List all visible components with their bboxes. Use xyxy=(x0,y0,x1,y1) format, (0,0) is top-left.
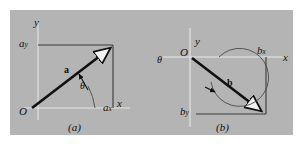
panel-b-component-y-label: by xyxy=(180,106,189,117)
panel-b-component-x-subscript: x xyxy=(263,48,266,56)
panel-a-graphics xyxy=(24,22,130,120)
panel-b-origin-label: O xyxy=(180,47,188,58)
panel-a-component-y-subscript: y xyxy=(25,41,28,49)
panel-a-vector-label: a xyxy=(64,65,69,75)
panel-b-vector-b xyxy=(192,58,260,110)
panel-b-x-axis-label: x xyxy=(283,52,288,63)
panel-b-vector-label: b xyxy=(227,78,233,88)
panel-a-origin-label: O xyxy=(19,106,27,117)
panel-a-component-y-label: ay xyxy=(19,38,28,49)
panel-a-angle-label: θ xyxy=(80,81,85,91)
panel-a-component-x-subscript: x xyxy=(109,105,112,113)
panel-a-x-axis-label: x xyxy=(117,98,122,109)
panel-a-y-axis-label: y xyxy=(34,17,39,28)
figure-root: y x O ay ax a θ (a) y x O bx by b θ (b) xyxy=(0,0,306,147)
panel-b-angle-label: θ xyxy=(157,55,162,65)
figure-vector-graphics xyxy=(0,0,306,147)
panel-b-y-axis-label: y xyxy=(195,36,200,47)
panel-a-theta-arc xyxy=(88,86,95,108)
panel-a-caption: (a) xyxy=(68,122,81,133)
panel-b-component-y-subscript: y xyxy=(186,109,189,117)
panel-b-caption: (b) xyxy=(216,122,229,133)
panel-a-vector-a xyxy=(32,49,109,108)
panel-a-component-x-label: ax xyxy=(103,102,112,113)
panel-b-component-x-label: bx xyxy=(257,45,266,56)
